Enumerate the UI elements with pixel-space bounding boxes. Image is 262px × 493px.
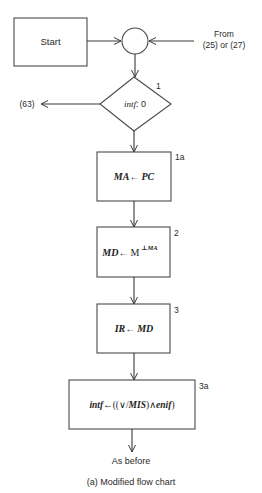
process-node-3a: 3a intf←((∨/MIS)∧enif) [69, 380, 209, 429]
start-label: Start [40, 36, 60, 47]
junction-circle [122, 28, 148, 54]
decision-condition: intf: 0 [124, 99, 146, 109]
step-number-1: 1 [156, 81, 161, 91]
start-node: Start [14, 18, 87, 66]
process-node-1a: 1a MA←PC [97, 152, 185, 201]
entry-from-text: From [214, 29, 234, 39]
flowchart-canvas: Start From (25) or (27) intf: 0 1 (63) 1… [0, 0, 262, 493]
end-label: As before [112, 456, 151, 466]
entry-source-text: (25) or (27) [203, 40, 246, 50]
assignment-3: IR←MD [114, 323, 154, 334]
figure-caption: (a) Modified flow chart [87, 477, 176, 487]
entry-label: From (25) or (27) [203, 29, 246, 50]
step-number-2: 2 [174, 228, 179, 238]
exit-label: (63) [19, 99, 34, 109]
assignment-1a: MA←PC [113, 171, 155, 182]
decision-node: intf: 0 1 [100, 77, 171, 131]
step-number-3a: 3a [199, 381, 209, 391]
assignment-3a: intf←((∨/MIS)∧enif) [89, 400, 174, 411]
process-node-3: 3 IR←MD [97, 304, 179, 353]
step-number-1a: 1a [175, 152, 185, 162]
step-number-3: 3 [174, 305, 179, 315]
process-node-2: 2 MD←M⊥MA [97, 227, 179, 277]
